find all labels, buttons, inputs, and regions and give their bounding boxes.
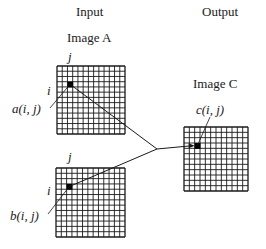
image-c-grid [184,127,248,191]
highlighted-pixel [195,143,201,149]
arrow-right-icon [189,143,195,148]
diagram-canvas [0,0,266,249]
image-b-grid [56,168,125,237]
